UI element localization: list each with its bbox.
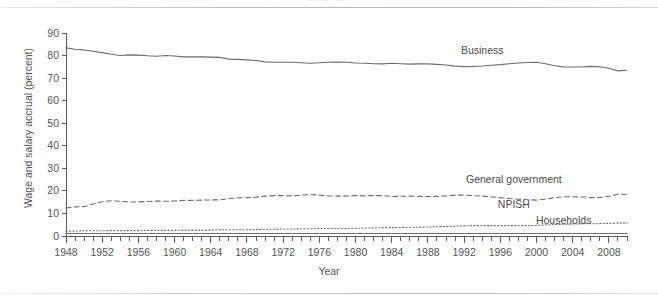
x-tick-label: 1956 (127, 246, 151, 258)
x-tick-label: 1984 (380, 246, 404, 258)
y-tick-label: 50 (47, 117, 59, 129)
bottom-divider-rule (0, 293, 658, 294)
figure-container: (percent) Wage and salary accrual (perce… (0, 0, 658, 305)
y-tick-label: 10 (47, 207, 59, 219)
series-label-npish: NPISH (498, 198, 530, 210)
x-tick-label: 1996 (489, 246, 513, 258)
y-tick-label: 20 (47, 184, 59, 196)
plot-area: 0102030405060708090194819521956196019641… (47, 27, 627, 258)
y-tick-label: 80 (47, 49, 59, 61)
x-tick-label: 1972 (271, 246, 295, 258)
y-tick-label: 30 (47, 162, 59, 174)
x-tick-label: 2008 (597, 246, 621, 258)
y-tick-label: 90 (47, 27, 59, 39)
x-tick-label: 1980 (344, 246, 368, 258)
x-tick-label: 1964 (199, 246, 223, 258)
x-tick-label: 2000 (525, 246, 549, 258)
x-tick-label: 1968 (235, 246, 259, 258)
x-tick-label: 1948 (54, 246, 78, 258)
y-tick-label: 0 (53, 230, 59, 242)
series-label-households: Households (536, 214, 591, 226)
x-tick-label: 1992 (452, 246, 476, 258)
series-line-general-government (66, 194, 627, 208)
x-tick-label: 1960 (163, 246, 187, 258)
x-tick-label: 1976 (308, 246, 332, 258)
x-tick-label: 1952 (91, 246, 115, 258)
y-tick-label: 60 (47, 94, 59, 106)
series-line-business (66, 48, 627, 71)
chart-svg: 0102030405060708090194819521956196019641… (0, 0, 658, 305)
series-label-general-government: General government (466, 173, 562, 185)
x-tick-label: 2004 (561, 246, 585, 258)
y-tick-label: 40 (47, 139, 59, 151)
series-label-business: Business (461, 44, 504, 56)
x-tick-label: 1988 (416, 246, 440, 258)
y-tick-label: 70 (47, 72, 59, 84)
